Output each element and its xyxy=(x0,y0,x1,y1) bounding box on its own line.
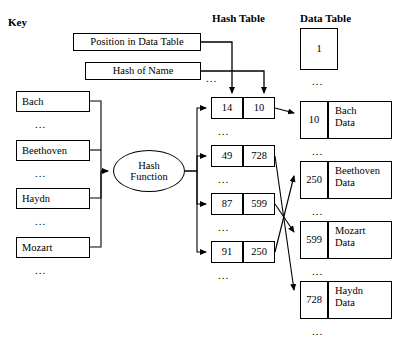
arrow-position-callout xyxy=(201,42,232,93)
hash-row-value-0: 10 xyxy=(243,97,275,119)
arrow-hash-to-row-3 xyxy=(197,171,206,252)
hash-function-line1: Hash xyxy=(138,160,160,171)
arrow-hash-to-row-0 xyxy=(185,108,206,171)
data-row-content-1-line1: Beethoven xyxy=(335,165,391,177)
hash-row-value-1: 728 xyxy=(243,145,275,167)
arrow-599-to-mozart-data xyxy=(275,204,294,232)
line-mozart-to-hash xyxy=(90,171,101,247)
data-row-content-2: Mozart Data xyxy=(328,221,392,259)
callout-ellipsis: ... xyxy=(206,73,217,83)
line-bach-to-hash xyxy=(90,101,101,171)
key-ellipsis-3: ... xyxy=(35,216,46,226)
key-item-haydn: Haydn xyxy=(16,188,90,209)
hash-ellipsis-2: ... xyxy=(218,174,229,184)
data-row-index-1: 250 xyxy=(300,161,328,199)
data-row-content-0-line2: Data xyxy=(335,117,391,129)
hash-ellipsis-3: ... xyxy=(218,222,229,232)
data-ellipsis-1: ... xyxy=(312,146,323,156)
data-ellipsis-0: ... xyxy=(312,76,323,86)
hash-function-line2: Function xyxy=(130,171,167,182)
hash-row-value-3: 250 xyxy=(243,241,275,263)
arrow-hash-to-row-2 xyxy=(197,171,206,204)
data-row-content-2-line1: Mozart xyxy=(335,225,391,237)
data-table-heading: Data Table xyxy=(300,12,351,24)
data-ellipsis-2: ... xyxy=(312,206,323,216)
callout-position-in-data-table: Position in Data Table xyxy=(73,33,201,51)
key-item-beethoven: Beethoven xyxy=(16,140,90,161)
callout-hash-of-name: Hash of Name xyxy=(85,62,201,80)
hash-row-index-3: 91 xyxy=(211,241,243,263)
hash-row-index-0: 14 xyxy=(211,97,243,119)
data-row-index-2: 599 xyxy=(300,221,328,259)
key-ellipsis-4: ... xyxy=(35,265,46,275)
data-row-content-3-line1: Haydn xyxy=(335,285,391,297)
hash-ellipsis-1: ... xyxy=(218,126,229,136)
hash-table-heading: Hash Table xyxy=(212,12,265,24)
arrow-hash-to-row-1 xyxy=(185,156,206,171)
data-row-index-3: 728 xyxy=(300,281,328,319)
key-item-mozart: Mozart xyxy=(16,237,90,258)
key-ellipsis-2: ... xyxy=(35,168,46,178)
hash-row-index-1: 49 xyxy=(211,145,243,167)
line-haydn-to-hash xyxy=(90,171,101,198)
key-column-heading: Key xyxy=(8,16,27,28)
data-row-content-0: Bach Data xyxy=(328,101,392,139)
data-row-top-cell: 1 xyxy=(300,28,338,70)
hash-row-value-2: 599 xyxy=(243,193,275,215)
data-row-content-0-line1: Bach xyxy=(335,105,391,117)
data-row-content-3-line2: Data xyxy=(335,297,391,309)
key-ellipsis-1: ... xyxy=(35,119,46,129)
hash-row-index-2: 87 xyxy=(211,193,243,215)
arrow-728-to-haydn-data xyxy=(275,156,294,290)
data-row-index-0: 10 xyxy=(300,101,328,139)
diagram-canvas: Key Hash Table Data Table Position in Da… xyxy=(0,0,403,343)
key-item-bach: Bach xyxy=(16,91,90,112)
hash-function-node: Hash Function xyxy=(113,150,185,192)
hash-ellipsis-4: ... xyxy=(218,270,229,280)
data-row-content-1: Beethoven Data xyxy=(328,161,392,199)
data-ellipsis-3: ... xyxy=(312,266,323,276)
data-ellipsis-4: ... xyxy=(312,326,323,336)
arrow-250-to-beethoven-data xyxy=(275,176,294,252)
data-row-content-2-line2: Data xyxy=(335,237,391,249)
arrow-10-to-bach-data xyxy=(275,108,294,113)
data-row-content-1-line2: Data xyxy=(335,177,391,189)
data-row-content-3: Haydn Data xyxy=(328,281,392,319)
